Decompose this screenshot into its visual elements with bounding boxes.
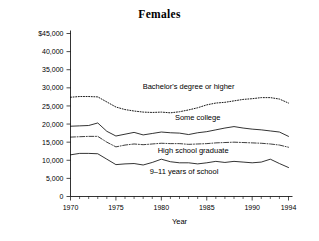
chart-plot-area: 05,00010,00015,00020,00025,00030,00035,0…	[0, 0, 319, 241]
x-tick-label: 1994	[281, 204, 297, 211]
series-label-2: High school graduate	[158, 146, 229, 155]
x-tick-label: 1975	[108, 204, 124, 211]
y-tick-label: 5,000	[46, 175, 64, 182]
x-tick-label: 1980	[154, 204, 170, 211]
series-label-1: Some college	[175, 113, 220, 122]
y-tick-label: 10,000	[42, 157, 64, 164]
series-line-3	[71, 153, 289, 167]
chart-figure: Females 05,00010,00015,00020,00025,00030…	[0, 0, 319, 241]
data-series-group	[71, 97, 289, 168]
y-axis-ticks: 05,00010,00015,00020,00025,00030,00035,0…	[38, 30, 70, 200]
x-tick-label: 1985	[199, 204, 215, 211]
series-line-1	[71, 123, 289, 136]
x-tick-label: 1970	[63, 204, 79, 211]
y-tick-label: 20,000	[42, 121, 64, 128]
y-tick-label: $45,000	[38, 30, 63, 37]
x-axis-title: Year	[172, 217, 188, 226]
y-tick-label: 0	[60, 193, 64, 200]
x-axis-ticks: 197019751980198519901994	[63, 197, 297, 211]
y-tick-label: 15,000	[42, 139, 64, 146]
series-label-0: Bachelor's degree or higher	[143, 82, 235, 91]
y-tick-label: 25,000	[42, 103, 64, 110]
series-label-3: 9–11 years of school	[150, 167, 219, 176]
series-line-0	[71, 97, 289, 113]
y-tick-label: 35,000	[42, 66, 64, 73]
y-tick-label: 40,000	[42, 48, 64, 55]
x-tick-label: 1990	[244, 204, 260, 211]
y-tick-label: 30,000	[42, 84, 64, 91]
